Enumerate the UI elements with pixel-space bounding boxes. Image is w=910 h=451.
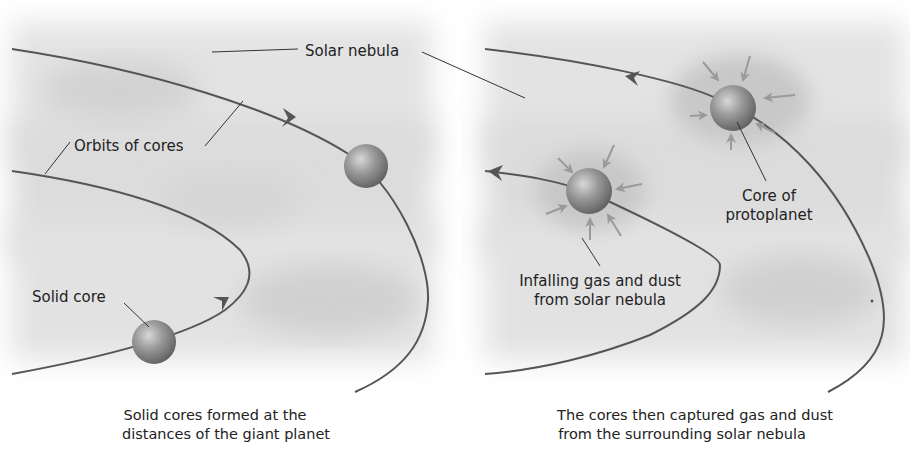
- core-of-protoplanet-label-line2: protoplanet: [725, 206, 812, 224]
- right-caption-line2: from the surrounding solar nebula: [558, 426, 806, 442]
- speck: [871, 300, 874, 303]
- right-nebula-background: [485, 22, 905, 360]
- solid-core: [132, 320, 176, 364]
- infall-core: [566, 168, 612, 214]
- left-caption-line2: distances of the giant planet: [122, 426, 330, 442]
- right-caption-line1: The cores then captured gas and dust: [556, 407, 833, 423]
- core-of-protoplanet-label-line1: Core of: [742, 187, 797, 205]
- left-outer-core: [344, 144, 388, 188]
- infalling-gas-label-line1: Infalling gas and dust: [519, 272, 681, 290]
- infalling-gas-label-line2: from solar nebula: [534, 291, 666, 309]
- protoplanet-core: [710, 85, 756, 131]
- orbits-of-cores-label: Orbits of cores: [74, 137, 184, 155]
- solar-nebula-label: Solar nebula: [305, 42, 399, 60]
- left-caption-line1: Solid cores formed at the: [123, 407, 306, 423]
- solar-nebula-diagram: Solar nebula Orbits of cores Solid core …: [0, 0, 910, 451]
- solid-core-label: Solid core: [32, 288, 106, 306]
